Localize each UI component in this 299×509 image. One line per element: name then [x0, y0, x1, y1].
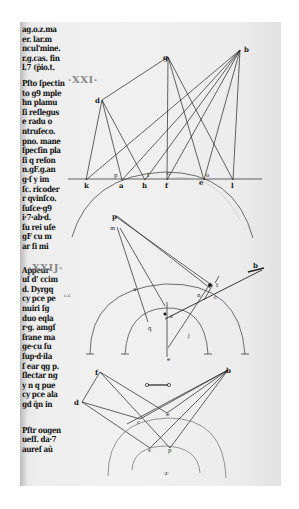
svg-text:d: d [74, 398, 79, 407]
svg-text:d: d [95, 96, 100, 105]
figure-1-labels: g b d k a h f e l p t c o [84, 45, 249, 190]
svg-text:t: t [216, 282, 219, 288]
figure-3 [82, 370, 228, 478]
svg-text:b: b [244, 45, 249, 54]
svg-text:o: o [206, 172, 210, 178]
svg-text:c: c [137, 419, 140, 425]
svg-text:j: j [187, 332, 190, 339]
svg-text:g: g [163, 53, 168, 62]
svg-text:s: s [148, 447, 151, 453]
svg-text:b: b [226, 366, 231, 375]
svg-text:p: p [112, 212, 117, 221]
svg-text:a: a [119, 181, 124, 190]
svg-text:k: k [84, 181, 89, 190]
svg-text:e: e [166, 411, 169, 417]
svg-text:n: n [197, 292, 201, 298]
figure-2-labels: p m b a n c q z e j t [110, 212, 258, 362]
svg-text:h: h [142, 181, 147, 190]
svg-text:c: c [214, 294, 217, 300]
svg-text:f: f [95, 368, 99, 377]
svg-text:e: e [167, 356, 170, 362]
figure-2 [86, 216, 264, 357]
svg-text:l: l [231, 181, 234, 190]
svg-text:c: c [167, 170, 170, 176]
svg-text:p: p [114, 172, 118, 179]
svg-text:b: b [253, 261, 258, 270]
svg-text:m: m [110, 225, 116, 231]
svg-text:z: z [170, 313, 173, 319]
svg-text:q: q [148, 325, 152, 332]
svg-text:e: e [199, 178, 204, 187]
geometric-diagrams: g b d k a h f e l p t c o p m b [0, 0, 299, 509]
svg-text:·z·: ·z· [163, 470, 170, 476]
svg-text:t: t [147, 172, 150, 178]
svg-text:p: p [168, 447, 172, 454]
svg-text:f: f [165, 181, 169, 190]
figure-1 [68, 50, 262, 238]
figure-3-labels: f b d c e s p ·z· [74, 366, 231, 476]
